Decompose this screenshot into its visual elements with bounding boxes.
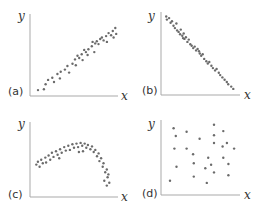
data-point <box>108 182 110 184</box>
data-point <box>181 35 183 37</box>
data-point <box>175 135 177 137</box>
data-point <box>98 160 100 162</box>
data-point <box>40 159 42 161</box>
data-point <box>230 85 232 87</box>
data-point <box>213 134 215 136</box>
data-point <box>89 148 91 150</box>
data-point <box>221 145 223 147</box>
data-point <box>106 41 108 43</box>
panel-label: (a) <box>8 85 23 98</box>
data-point <box>207 157 209 159</box>
data-point <box>168 17 170 19</box>
data-point <box>73 147 75 149</box>
data-point <box>61 152 63 154</box>
data-point <box>183 32 185 34</box>
data-point <box>223 79 225 81</box>
data-point <box>93 151 95 153</box>
data-point <box>206 182 208 184</box>
data-point <box>172 25 174 27</box>
data-point <box>91 45 93 47</box>
data-point <box>60 71 62 73</box>
data-point <box>212 67 214 69</box>
panel-label: (b) <box>142 84 158 97</box>
data-point <box>102 166 104 168</box>
data-point <box>210 164 212 166</box>
data-point <box>210 65 212 67</box>
data-point <box>37 89 39 91</box>
data-point <box>222 130 224 132</box>
data-point <box>56 154 58 156</box>
data-point <box>44 83 46 85</box>
data-point <box>194 45 196 47</box>
data-point <box>202 53 204 55</box>
data-point <box>115 33 117 35</box>
data-point <box>100 157 102 159</box>
y-axis-label: y <box>147 117 155 131</box>
data-point <box>174 27 176 29</box>
data-point <box>112 36 114 38</box>
data-point <box>203 58 205 60</box>
data-point <box>227 174 229 176</box>
data-point <box>87 144 89 146</box>
data-point <box>172 127 174 129</box>
data-point <box>103 180 105 182</box>
data-point <box>222 157 224 159</box>
data-point <box>77 146 79 148</box>
data-point <box>191 45 193 47</box>
data-point <box>43 88 45 90</box>
x-axis-label: x <box>244 88 251 102</box>
panel-label: (d) <box>142 187 158 200</box>
data-point <box>71 63 73 65</box>
data-point <box>188 38 190 40</box>
data-point <box>94 149 96 151</box>
data-point <box>81 59 83 61</box>
data-point <box>63 146 65 148</box>
data-point <box>78 57 80 59</box>
data-point <box>74 58 76 60</box>
data-point <box>204 167 206 169</box>
data-point <box>68 71 70 73</box>
data-point <box>101 36 103 38</box>
data-point <box>171 20 173 22</box>
data-point <box>215 68 217 70</box>
data-point <box>96 40 98 42</box>
data-point <box>47 154 49 156</box>
data-point <box>192 153 194 155</box>
data-point <box>104 171 106 173</box>
data-point <box>182 37 184 39</box>
data-point <box>179 33 181 35</box>
data-point <box>37 161 39 163</box>
data-point <box>81 53 83 55</box>
data-point <box>110 34 112 36</box>
data-point <box>71 143 73 145</box>
y-axis-label: y <box>17 117 25 131</box>
data-point <box>226 142 228 144</box>
data-point <box>59 148 61 150</box>
data-point <box>107 32 109 34</box>
data-point <box>52 156 54 158</box>
data-point <box>44 156 46 158</box>
data-point <box>185 36 187 38</box>
point-group <box>165 15 235 90</box>
data-point <box>205 60 207 62</box>
panel-a: y x (a) <box>8 9 128 103</box>
data-point <box>107 173 109 175</box>
data-point <box>193 175 195 177</box>
data-point <box>94 42 96 44</box>
data-point <box>86 54 88 56</box>
data-point <box>91 41 93 43</box>
data-point <box>76 55 78 57</box>
point-group <box>37 27 118 92</box>
data-point <box>166 18 168 20</box>
data-point <box>87 48 89 50</box>
data-point <box>226 81 228 83</box>
data-point <box>96 155 98 157</box>
data-point <box>213 124 215 126</box>
data-point <box>169 180 171 182</box>
x-axis-label: x <box>244 188 251 202</box>
data-point <box>97 152 99 154</box>
data-point <box>42 162 44 164</box>
data-point <box>81 145 83 147</box>
data-point <box>198 50 200 52</box>
data-point <box>219 74 221 76</box>
